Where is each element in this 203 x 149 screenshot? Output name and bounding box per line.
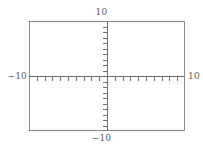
y-axis-line — [107, 21, 108, 131]
coordinate-plane-graph: 10 −10 −10 10 — [0, 0, 203, 149]
x-axis-max-label: 10 — [188, 71, 200, 81]
x-axis-min-label: −10 — [4, 71, 27, 81]
y-axis-min-label: −10 — [0, 133, 203, 143]
y-axis-max-label: 10 — [0, 7, 203, 17]
